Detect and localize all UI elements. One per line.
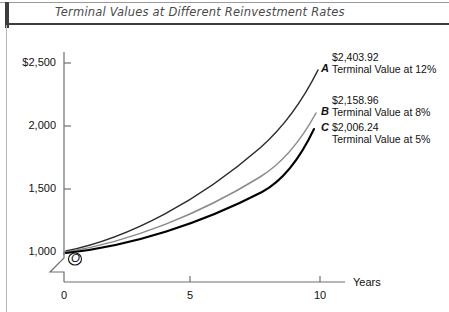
- series-curve-c: [66, 129, 314, 253]
- series-caption-b: Terminal Value at 8%: [332, 106, 430, 119]
- y-tick-label-2000: 2,000: [2, 119, 56, 131]
- x-tick-label-10: 10: [305, 289, 335, 301]
- figure-container: Terminal Values at Different Reinvestmen…: [0, 0, 449, 312]
- series-caption-a: Terminal Value at 12%: [332, 63, 436, 76]
- y-tick-label-1500: 1,500: [2, 182, 56, 194]
- y-tick-label-1000: 1,000: [2, 245, 56, 257]
- x-axis-title: Years: [353, 276, 381, 288]
- x-tick-label-0: 0: [49, 289, 79, 301]
- x-tick-label-5: 5: [175, 289, 205, 301]
- chart-plot: [0, 0, 449, 312]
- series-key-b: B: [321, 105, 329, 117]
- series-curve-b: [66, 113, 316, 252]
- origin-label: O: [71, 252, 80, 264]
- series-key-a: A: [321, 62, 329, 74]
- series-caption-c: Terminal Value at 5%: [332, 133, 430, 146]
- y-tick-label-2500: $2,500: [2, 56, 56, 68]
- series-key-c: C: [321, 121, 329, 133]
